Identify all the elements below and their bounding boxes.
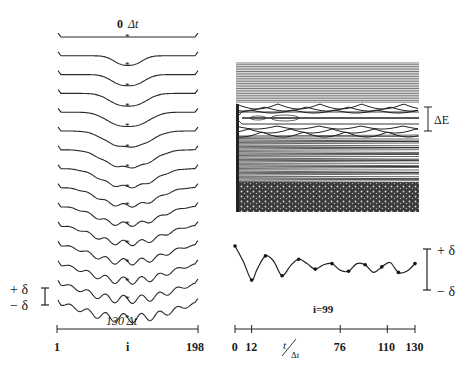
bottom-label: 130 Δt xyxy=(106,314,138,328)
x-tick-label: 76 xyxy=(334,340,346,354)
trace-point xyxy=(413,262,417,266)
left-minus-delta: − δ xyxy=(10,298,28,313)
site-label: i=99 xyxy=(313,303,334,315)
center-site-marker: * xyxy=(125,60,130,70)
trace-point xyxy=(347,270,351,274)
left-plus-delta: + δ xyxy=(10,282,28,297)
center-site-marker: * xyxy=(125,276,130,286)
trace-point xyxy=(264,254,268,258)
trace-point xyxy=(380,265,384,269)
gap-label: ΔE xyxy=(434,113,449,127)
left-tick-1: 1 xyxy=(54,340,60,354)
center-site-marker: * xyxy=(125,81,130,91)
trace-point xyxy=(250,278,254,282)
center-site-marker: * xyxy=(125,238,130,248)
left-scale-bar: + δ − δ xyxy=(10,282,49,313)
trace-point xyxy=(233,244,237,248)
trace-point xyxy=(280,274,284,278)
left-panel: 0 Δt *************** + δ − δ 130 Δt 1 i … xyxy=(10,17,204,354)
top-label-unit: Δt xyxy=(127,17,139,31)
center-site-marker: * xyxy=(125,121,130,131)
center-site-marker: * xyxy=(125,294,130,304)
site-trace-panel: + δ − δ i=99 01276110130 t Δt xyxy=(232,243,456,360)
left-tick-i: i xyxy=(126,340,130,354)
x-label-numerator: t xyxy=(283,339,287,351)
gap-scale-bar xyxy=(424,107,432,131)
right-minus-delta: − δ xyxy=(437,284,455,299)
trace-point xyxy=(330,262,334,266)
top-label-num: 0 xyxy=(117,17,123,31)
center-site-marker: * xyxy=(125,101,130,111)
center-site-marker: * xyxy=(125,200,130,210)
trace-point xyxy=(363,263,367,267)
center-site-marker: * xyxy=(125,182,130,192)
x-tick-label: 12 xyxy=(245,340,257,354)
snapshot-curves: *************** xyxy=(58,32,198,323)
trace-point xyxy=(297,257,301,261)
trace-point xyxy=(397,271,401,275)
x-tick-label: 110 xyxy=(378,340,395,354)
trace-line xyxy=(235,246,415,280)
figure: 0 Δt *************** + δ − δ 130 Δt 1 i … xyxy=(0,0,472,375)
right-scale-bar xyxy=(423,249,431,290)
left-tick-198: 198 xyxy=(186,340,204,354)
center-site-marker: * xyxy=(125,257,130,267)
center-site-marker: * xyxy=(125,142,130,152)
center-site-marker: * xyxy=(125,32,130,42)
x-tick-label: 0 xyxy=(232,340,238,354)
x-tick-label: 130 xyxy=(405,340,423,354)
trace-point xyxy=(314,267,318,271)
x-label-denominator: Δt xyxy=(291,350,300,360)
energy-levels-panel: ΔE xyxy=(236,63,449,212)
center-site-marker: * xyxy=(125,162,130,172)
center-site-marker: * xyxy=(125,219,130,229)
right-plus-delta: + δ xyxy=(437,243,455,258)
